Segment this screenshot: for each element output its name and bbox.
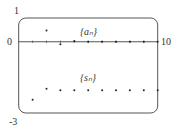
y-min-label: -3 (9, 116, 17, 127)
point-a-n (143, 41, 145, 43)
point-a-n (87, 41, 89, 43)
point-s-n (143, 89, 145, 91)
point-s-n (59, 89, 61, 91)
point-s-n (87, 89, 89, 91)
point-a-n (59, 43, 61, 45)
point-s-n (157, 89, 159, 91)
series-label-s: {sₙ} (80, 72, 96, 83)
point-s-n (101, 89, 103, 91)
y-max-label: 1 (14, 5, 19, 16)
x-max-label: 10 (161, 36, 171, 47)
point-s-n (115, 89, 117, 91)
point-a-n (101, 41, 103, 43)
point-s-n (32, 99, 34, 101)
point-s-n (129, 89, 131, 91)
x-min-label: 0 (7, 36, 12, 47)
point-a-n (115, 41, 117, 43)
point-a-n (129, 41, 131, 43)
point-s-n (73, 89, 75, 91)
point-a-n (46, 30, 48, 32)
point-s-n (46, 88, 48, 90)
point-a-n (73, 40, 75, 42)
sequence-plot: 1 -3 0 10 {aₙ} {sₙ} (0, 0, 177, 129)
point-a-n (157, 41, 159, 43)
series-label-a: {aₙ} (80, 26, 97, 37)
data-points (32, 30, 159, 101)
